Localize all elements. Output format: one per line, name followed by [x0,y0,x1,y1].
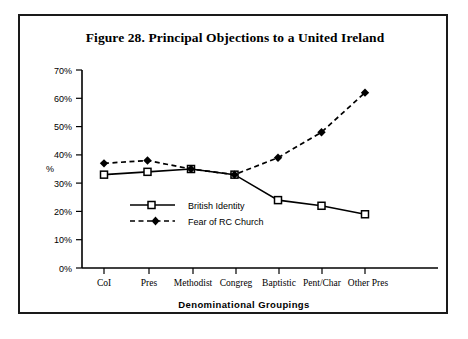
data-point-marker-filled-diamond [143,156,151,164]
y-axis-ticks [76,70,82,268]
y-axis-tick-labels: 70% 60% 50% 40% 30% 20% 10% 0% [54,66,72,274]
chart-plot-area: 70% 60% 50% 40% 30% 20% 10% 0% % CoI Pre… [20,16,450,316]
y-tick-label: 60% [54,94,72,104]
x-tick-label: Baptistic [262,278,296,288]
x-axis-title: Denominational Groupings [178,299,310,310]
y-tick-label: 30% [54,179,72,189]
data-point-marker-open-square [101,171,108,178]
x-tick-label: Methodist [174,278,213,288]
series-markers-fear-of-rc-church [100,88,369,178]
y-tick-label: 20% [54,207,72,217]
y-tick-label: 40% [54,150,72,160]
data-point-marker-filled-diamond [274,153,282,161]
x-tick-label: Other Pres [348,278,389,288]
y-tick-label: 0% [59,264,72,274]
data-point-marker-open-square [318,202,325,209]
chart-legend: British Identity Fear of RC Church [130,201,264,227]
legend-marker-open-square [148,202,155,209]
legend-item-fear-of-rc-church: Fear of RC Church [130,217,264,227]
legend-label-british-identity: British Identity [188,201,245,211]
data-point-marker-open-square [362,211,369,218]
x-axis-ticks [104,268,365,274]
series-fear-of-rc-church [100,88,369,178]
data-point-marker-open-square [275,197,282,204]
legend-item-british-identity: British Identity [130,201,245,211]
y-tick-label: 70% [54,66,72,76]
x-tick-label: CoI [97,278,111,288]
x-tick-label: Pres [141,278,158,288]
legend-label-fear-of-rc-church: Fear of RC Church [188,217,264,227]
y-tick-label: 50% [54,122,72,132]
series-line-fear-of-rc-church [104,93,365,175]
legend-marker-filled-diamond [152,217,160,226]
data-point-marker-open-square [144,168,151,175]
y-tick-label: 10% [54,235,72,245]
x-axis-tick-labels: CoI Pres Methodist Congreg Baptistic Pen… [97,278,389,288]
data-point-marker-filled-diamond [100,159,108,167]
x-tick-label: Congreg [220,278,253,288]
y-axis-title: % [46,164,54,174]
figure-frame: Figure 28. Principal Objections to a Uni… [18,14,448,314]
x-tick-label: Pent/Char [303,278,342,288]
